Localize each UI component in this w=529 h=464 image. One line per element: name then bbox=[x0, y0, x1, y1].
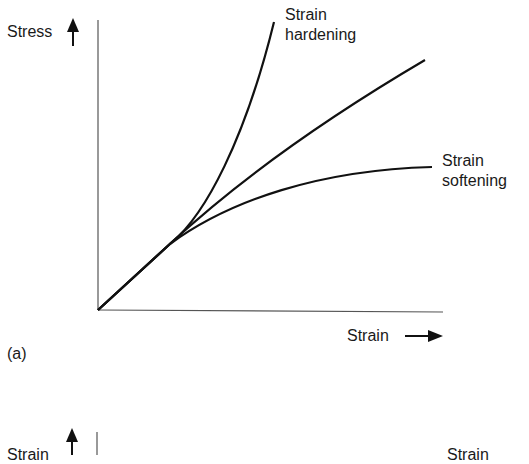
linear-curve bbox=[98, 60, 425, 310]
softening-label-line1: Strain bbox=[442, 152, 484, 170]
softening-label-line2: softening bbox=[442, 172, 507, 190]
hardening-label-line2: hardening bbox=[285, 26, 356, 44]
panel-label-a: (a) bbox=[7, 345, 27, 363]
panel-b-arrow-icon bbox=[66, 428, 78, 455]
x-axis bbox=[98, 310, 443, 312]
stress-arrow-icon bbox=[67, 18, 79, 46]
x-axis-label: Strain bbox=[347, 327, 389, 345]
panel-b-right-label: Strain bbox=[447, 446, 489, 464]
panel-b-y-axis-label: Strain bbox=[7, 446, 49, 464]
hardening-label-line1: Strain bbox=[285, 6, 327, 24]
softening-curve bbox=[98, 167, 432, 310]
hardening-curve bbox=[98, 22, 274, 310]
y-axis-label: Stress bbox=[7, 23, 52, 41]
strain-arrow-icon bbox=[405, 330, 443, 342]
